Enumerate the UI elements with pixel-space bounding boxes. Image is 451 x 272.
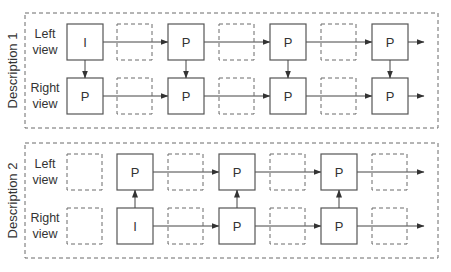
description-panel-2: Description 2LeftviewPPPRightviewIPP bbox=[5, 143, 438, 258]
view-label-line1: Left bbox=[35, 27, 56, 41]
frame-type-label: P bbox=[182, 89, 191, 104]
view-label-line1: Right bbox=[30, 211, 60, 225]
frame-type-label: P bbox=[386, 35, 395, 50]
frame-type-label: P bbox=[182, 35, 191, 50]
view-label-line2: view bbox=[32, 97, 58, 111]
frame-type-label: P bbox=[335, 165, 344, 180]
description-title: Description 1 bbox=[5, 33, 20, 109]
frame-type-label: I bbox=[83, 35, 87, 50]
view-label-line2: view bbox=[32, 227, 58, 241]
description-title: Description 2 bbox=[5, 163, 20, 239]
frame-type-label: I bbox=[133, 219, 137, 234]
frame-type-label: P bbox=[284, 35, 293, 50]
view-label-line2: view bbox=[32, 173, 58, 187]
view-label-line1: Right bbox=[30, 81, 60, 95]
skipped-frame-box bbox=[67, 154, 102, 190]
view-label-line2: view bbox=[32, 43, 58, 57]
skipped-frame-box bbox=[67, 208, 102, 244]
frame-type-label: P bbox=[335, 219, 344, 234]
frame-type-label: P bbox=[233, 165, 242, 180]
view-label-line1: Left bbox=[35, 157, 56, 171]
frame-type-label: P bbox=[131, 165, 140, 180]
frame-type-label: P bbox=[284, 89, 293, 104]
stereo-coding-diagram: Description 1LeftviewIPPPRightviewPPPPDe… bbox=[0, 0, 451, 272]
frame-type-label: P bbox=[233, 219, 242, 234]
frame-type-label: P bbox=[386, 89, 395, 104]
frame-type-label: P bbox=[81, 89, 90, 104]
description-panel-1: Description 1LeftviewIPPPRightviewPPPP bbox=[5, 13, 438, 128]
